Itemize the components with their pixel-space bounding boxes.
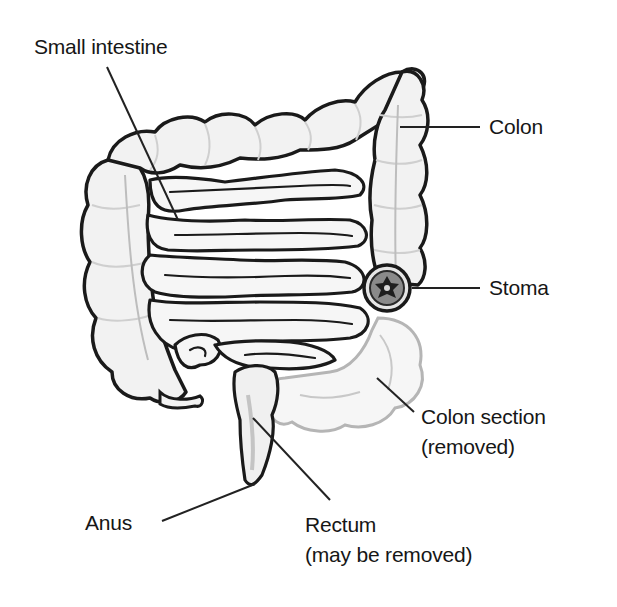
label-anus: Anus <box>85 510 132 536</box>
small-intestine-coils <box>142 170 368 369</box>
stoma <box>364 265 410 311</box>
rectum <box>234 366 278 485</box>
label-rectum: Rectum (may be removed) <box>305 510 472 570</box>
leader-anus <box>162 484 255 521</box>
label-small-intestine: Small intestine <box>34 34 168 60</box>
label-stoma: Stoma <box>489 275 549 301</box>
anatomy-diagram: Small intestine Colon Stoma Colon sectio… <box>0 0 617 607</box>
label-colon: Colon <box>489 114 543 140</box>
label-colon-section: Colon section (removed) <box>421 402 546 462</box>
